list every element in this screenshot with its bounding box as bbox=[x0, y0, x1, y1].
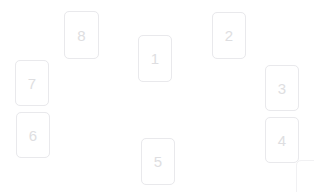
card-label: 6 bbox=[29, 128, 38, 143]
card-label: 3 bbox=[278, 81, 287, 96]
card-label: 1 bbox=[151, 51, 160, 66]
card-label: 5 bbox=[154, 154, 163, 169]
card-label: 8 bbox=[77, 28, 86, 43]
card-canvas: 87615234 bbox=[0, 0, 314, 192]
card-label: 4 bbox=[278, 133, 287, 148]
card-1[interactable]: 1 bbox=[138, 35, 172, 82]
card-label: 2 bbox=[225, 28, 234, 43]
card-7[interactable]: 7 bbox=[15, 60, 49, 106]
card-8[interactable]: 8 bbox=[64, 11, 99, 59]
clipped-card-fragment[interactable] bbox=[296, 160, 314, 192]
card-4[interactable]: 4 bbox=[265, 117, 299, 163]
card-6[interactable]: 6 bbox=[16, 112, 50, 158]
card-5[interactable]: 5 bbox=[141, 138, 175, 185]
card-3[interactable]: 3 bbox=[265, 65, 299, 111]
card-label: 7 bbox=[28, 76, 37, 91]
card-2[interactable]: 2 bbox=[212, 12, 246, 59]
